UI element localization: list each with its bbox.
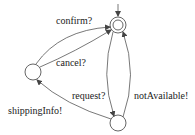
- label-request: request?: [72, 90, 106, 101]
- edge-notavailable: [123, 32, 131, 117]
- state-s1: [25, 64, 41, 80]
- state-diagram: confirm? cancel? request? notAvailable! …: [0, 0, 195, 135]
- label-shippinginfo: shippingInfo!: [8, 105, 62, 116]
- edge-request: [107, 32, 114, 116]
- label-cancel: cancel?: [56, 57, 87, 68]
- state-s2: [110, 115, 126, 131]
- label-confirm: confirm?: [56, 15, 93, 26]
- label-notavailable: notAvailable!: [134, 90, 188, 101]
- state-s0: [110, 17, 126, 33]
